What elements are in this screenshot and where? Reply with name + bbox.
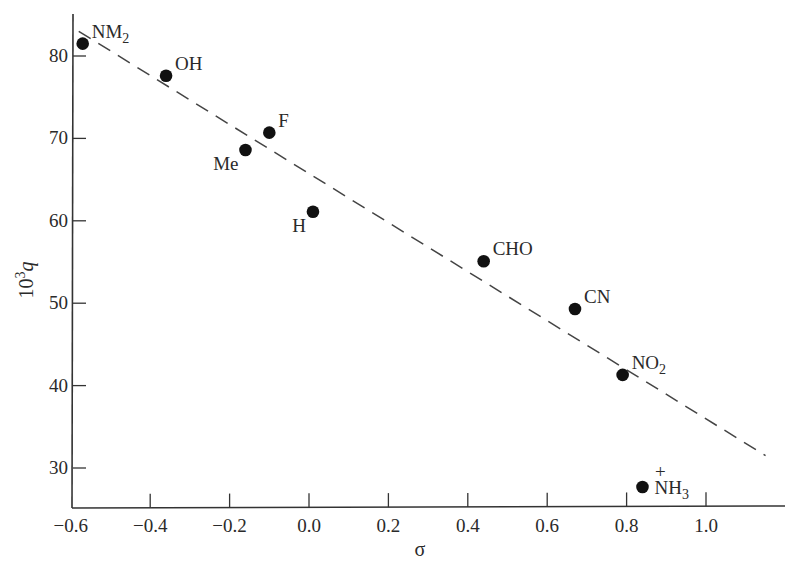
x-tick-label: 0.2 — [377, 515, 401, 536]
point-marker — [160, 69, 173, 82]
data-point: OH — [160, 53, 203, 82]
y-tick-label: 40 — [49, 375, 68, 396]
data-points: NM2OHFMeHCHOCNNO2NH3+ — [76, 21, 689, 502]
data-point: NO2 — [616, 352, 666, 381]
x-tick-label: 0.4 — [456, 515, 480, 536]
charge-superscript: + — [655, 461, 666, 482]
point-label: NM2 — [92, 21, 130, 46]
point-marker — [239, 144, 252, 157]
x-tick-label: 0.8 — [615, 515, 639, 536]
point-marker — [477, 255, 490, 268]
x-axis-ticks: −0.6−0.4−0.20.00.20.40.60.81.0 — [54, 492, 718, 536]
axes — [72, 14, 785, 508]
point-label: H — [292, 215, 306, 236]
point-label: Me — [213, 153, 238, 174]
point-marker — [569, 303, 582, 316]
y-axis-title: 103q — [13, 262, 38, 299]
data-point: Me — [213, 144, 252, 174]
y-tick-label: 50 — [49, 292, 68, 313]
point-label: CHO — [493, 238, 533, 259]
x-tick-label: −0.4 — [133, 515, 168, 536]
point-marker — [263, 126, 276, 139]
y-axis-line — [72, 14, 73, 508]
fit-line-layer — [79, 31, 766, 455]
x-tick-label: 1.0 — [694, 515, 718, 536]
point-label: CN — [584, 286, 611, 307]
point-marker — [307, 205, 320, 218]
data-point: CN — [569, 286, 611, 315]
y-tick-label: 60 — [49, 210, 68, 231]
point-marker — [636, 481, 649, 494]
scatter-chart: −0.6−0.4−0.20.00.20.40.60.81.0 304050607… — [0, 0, 799, 569]
y-tick-label: 80 — [49, 45, 68, 66]
data-point: H — [292, 205, 319, 235]
x-tick-label: −0.6 — [54, 515, 88, 536]
y-tick-label: 30 — [49, 457, 68, 478]
data-point: F — [263, 110, 289, 139]
x-axis-line — [72, 506, 785, 508]
x-tick-label: 0.6 — [535, 515, 559, 536]
x-tick-label: 0.0 — [297, 515, 321, 536]
y-axis-ticks: 304050607080 — [49, 45, 86, 478]
point-marker — [616, 369, 629, 382]
x-axis-title: σ — [415, 538, 426, 560]
point-label: NO2 — [632, 352, 666, 377]
y-tick-label: 70 — [49, 127, 68, 148]
point-label: OH — [175, 53, 203, 74]
data-point: CHO — [477, 238, 532, 267]
x-tick-label: −0.2 — [212, 515, 246, 536]
point-label: F — [278, 110, 289, 131]
regression-line — [79, 31, 766, 455]
data-point: NH3+ — [636, 461, 689, 502]
point-marker — [76, 37, 89, 50]
